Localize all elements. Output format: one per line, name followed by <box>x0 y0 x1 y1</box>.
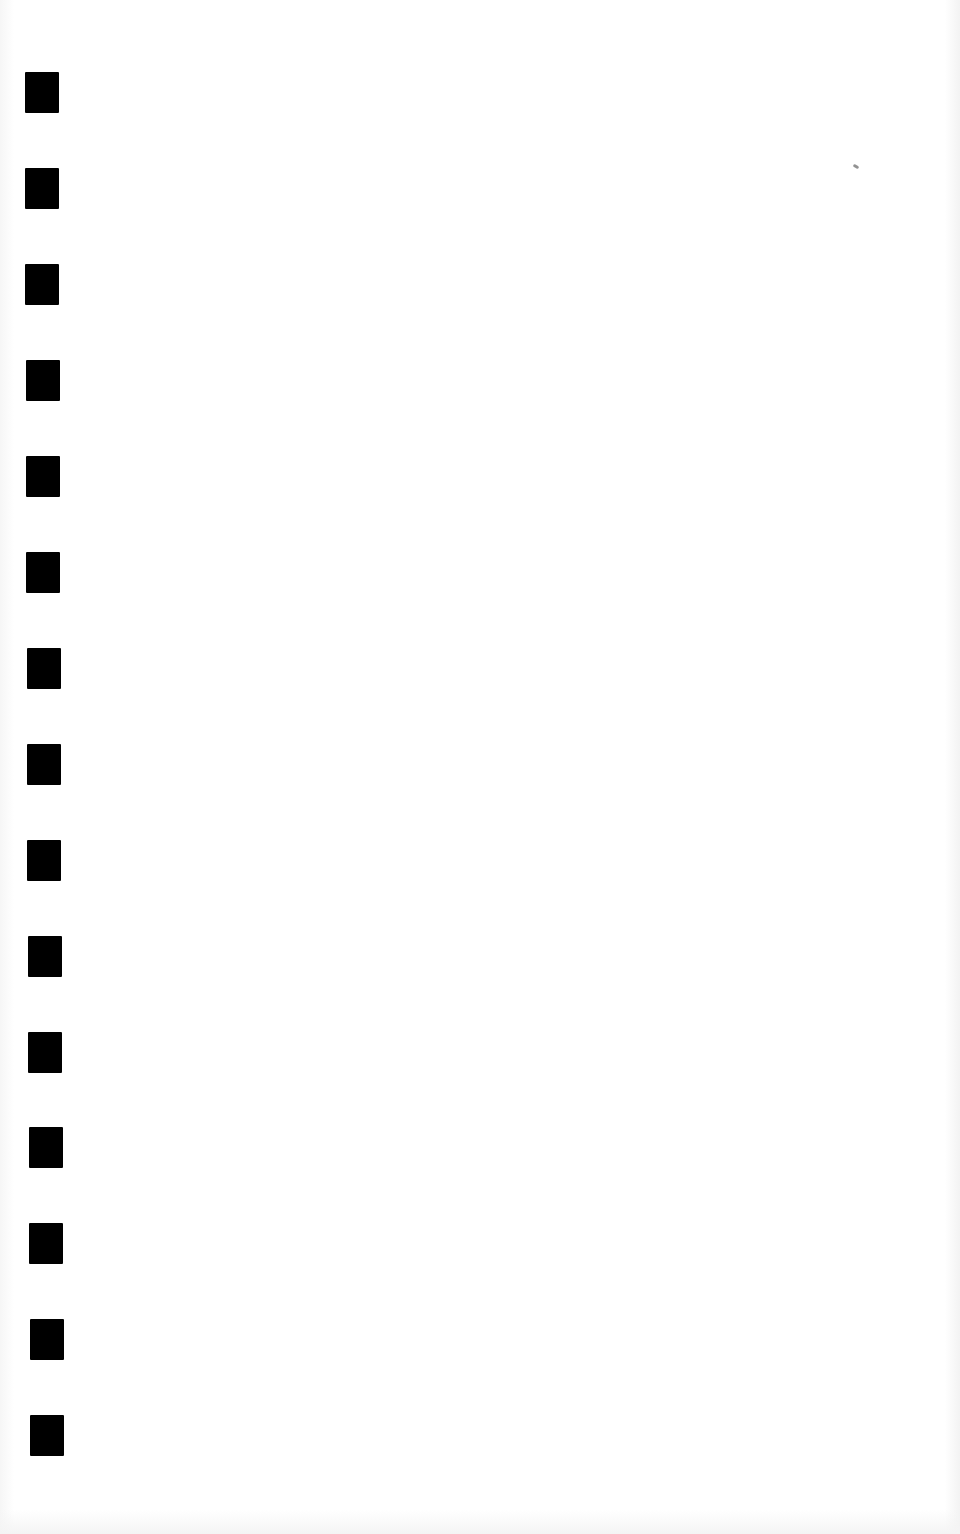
margin-mark <box>26 456 60 497</box>
margin-mark <box>26 360 60 401</box>
margin-mark <box>25 264 59 305</box>
margin-mark <box>30 1415 64 1456</box>
scanned-page <box>0 0 960 1534</box>
scan-speck <box>853 164 860 170</box>
margin-mark <box>25 168 59 209</box>
margin-mark <box>26 552 60 593</box>
margin-mark <box>27 744 61 785</box>
margin-mark <box>25 72 59 113</box>
margin-mark <box>30 1319 64 1360</box>
margin-mark <box>27 840 61 881</box>
margin-mark <box>28 1032 62 1073</box>
margin-mark <box>29 1127 63 1168</box>
margin-marks <box>0 0 80 1534</box>
margin-mark <box>28 936 62 977</box>
margin-mark <box>29 1223 63 1264</box>
margin-mark <box>27 648 61 689</box>
